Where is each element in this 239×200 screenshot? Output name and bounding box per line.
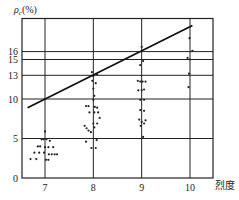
data-point — [99, 117, 101, 119]
data-point — [33, 152, 35, 154]
data-point — [51, 153, 53, 155]
data-point — [91, 71, 93, 73]
y-axis-label: ρc(%) — [13, 4, 37, 17]
data-point — [90, 147, 92, 149]
regression-line — [28, 26, 193, 108]
data-point — [142, 81, 144, 83]
data-point — [141, 89, 143, 91]
chart: 0510131516 78910 ρc(%) 烈度 — [0, 0, 239, 200]
y-tick-label: 16 — [8, 46, 18, 57]
data-point — [96, 139, 98, 141]
data-point — [93, 95, 95, 97]
data-point — [94, 106, 96, 108]
data-point — [87, 105, 89, 107]
regression-line-path — [28, 26, 193, 108]
data-point — [56, 153, 58, 155]
data-point — [138, 118, 140, 120]
data-point — [188, 37, 190, 39]
data-point — [85, 127, 87, 129]
data-point — [139, 81, 141, 83]
y-tick-label: 10 — [8, 94, 18, 105]
data-point — [90, 131, 92, 133]
data-point — [142, 60, 144, 62]
gridlines — [22, 19, 213, 179]
x-tick-label: 9 — [139, 182, 144, 193]
data-point — [37, 145, 39, 147]
data-point — [87, 130, 89, 132]
data-point — [92, 88, 94, 90]
x-tick-label: 7 — [43, 182, 48, 193]
x-tick-labels: 78910 — [43, 182, 196, 193]
data-point — [139, 64, 141, 66]
data-point — [95, 147, 97, 149]
data-point — [143, 99, 145, 101]
x-axis-label: 烈度 — [215, 179, 235, 191]
data-point — [38, 152, 40, 154]
data-point — [143, 110, 145, 112]
data-point — [141, 46, 143, 48]
data-point — [84, 125, 86, 127]
data-point — [141, 121, 143, 123]
data-point — [49, 140, 51, 142]
data-point — [188, 73, 190, 75]
y-tick-label: 0 — [13, 173, 18, 184]
plot-frame — [22, 19, 213, 179]
data-point — [96, 107, 98, 109]
data-point — [42, 138, 44, 140]
data-point — [137, 80, 139, 82]
x-tick-label: 10 — [185, 182, 195, 193]
data-point — [92, 122, 94, 124]
data-point — [93, 111, 95, 113]
data-point — [85, 141, 87, 143]
data-point — [137, 89, 139, 91]
data-point — [47, 146, 49, 148]
data-point — [97, 111, 99, 113]
data-point — [45, 138, 47, 140]
data-point — [92, 99, 94, 101]
data-point — [44, 146, 46, 148]
data-point — [43, 152, 45, 154]
data-point — [54, 153, 56, 155]
data-point — [186, 57, 188, 59]
data-point — [142, 136, 144, 138]
data-point — [39, 145, 41, 147]
data-point — [139, 109, 141, 111]
data-point — [189, 58, 191, 60]
data-point — [144, 119, 146, 121]
data-point — [45, 159, 47, 161]
data-point — [85, 105, 87, 107]
data-point — [35, 158, 37, 160]
data-point — [143, 88, 145, 90]
data-point — [47, 159, 49, 161]
data-point — [191, 50, 193, 52]
y-tick-label: 5 — [13, 133, 18, 144]
y-tick-labels: 0510131516 — [8, 46, 18, 183]
data-point — [93, 126, 95, 128]
y-tick-label: 13 — [8, 70, 18, 81]
data-point — [144, 81, 146, 83]
data-point — [187, 86, 189, 88]
data-point — [140, 125, 142, 127]
data-point — [139, 99, 141, 101]
data-point — [29, 158, 31, 160]
data-point — [52, 146, 54, 148]
data-point — [96, 122, 98, 124]
data-point — [91, 80, 93, 82]
data-point — [44, 130, 46, 132]
data-point — [41, 138, 43, 140]
data-point — [48, 153, 50, 155]
data-point — [88, 111, 90, 113]
data-point — [143, 122, 145, 124]
data-point — [95, 82, 97, 84]
x-tick-label: 8 — [91, 182, 96, 193]
